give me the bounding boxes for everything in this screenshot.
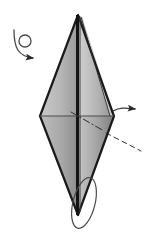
turn-over-loop-arrow	[14, 30, 33, 58]
origami-figure: Origami step diagram: narrow kite/diamon…	[0, 0, 148, 234]
origami-diagram-canvas	[0, 0, 148, 234]
turn-over-circle	[19, 35, 31, 47]
dashed-hidden-edge	[106, 133, 141, 151]
fold-direction-arrow	[113, 108, 135, 111]
fold-direction-arrow-shaft	[113, 108, 135, 111]
